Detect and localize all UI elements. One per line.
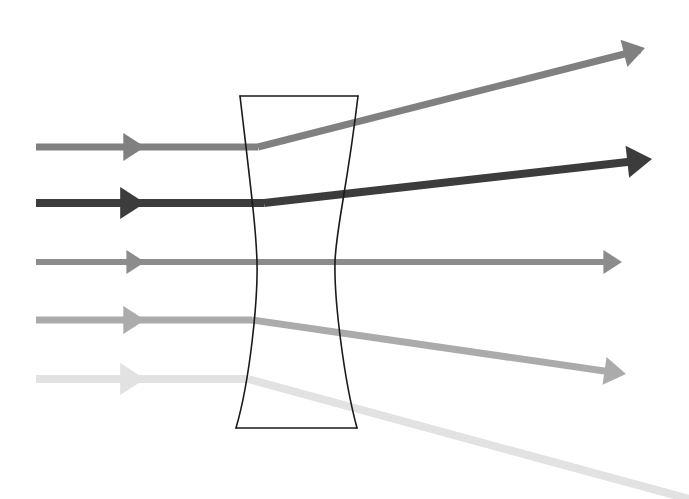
diagram-background xyxy=(0,0,689,499)
ray-diagram-canvas xyxy=(0,0,689,499)
diverging-lens-diagram xyxy=(0,0,689,499)
